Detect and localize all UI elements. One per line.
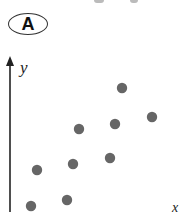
data-point (68, 159, 78, 169)
data-point (32, 165, 42, 175)
data-points (26, 83, 157, 211)
scatter-plot (0, 0, 180, 212)
data-point (105, 153, 115, 163)
data-point (62, 195, 72, 205)
data-point (117, 83, 127, 93)
data-point (26, 201, 36, 211)
data-point (147, 112, 157, 122)
y-axis-arrow-icon (6, 56, 14, 66)
data-point (110, 119, 120, 129)
data-point (74, 124, 84, 134)
x-axis-label: x (172, 200, 178, 212)
y-axis-label: y (20, 58, 28, 78)
